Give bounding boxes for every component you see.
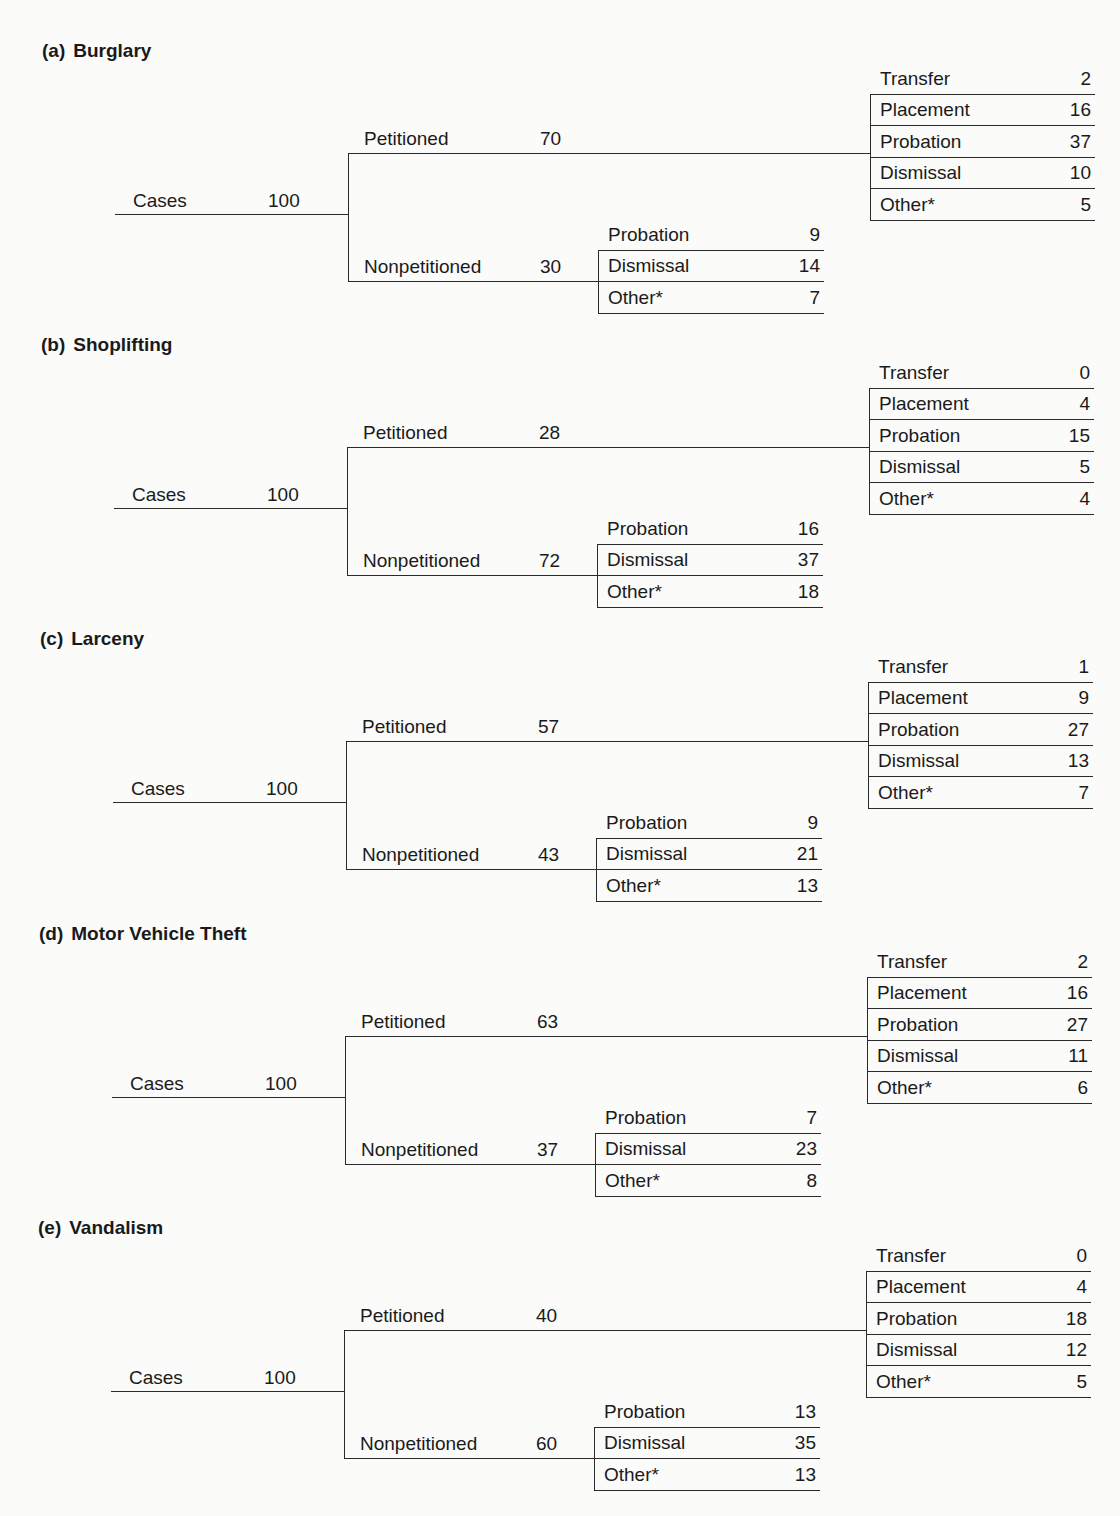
outcome-row: Other*13 bbox=[594, 1458, 820, 1491]
outcome-row: Probation27 bbox=[867, 1008, 1092, 1041]
outcome-row: Dismissal5 bbox=[869, 451, 1094, 484]
section-letter: (b) bbox=[41, 334, 65, 355]
nonpetitioned-line bbox=[346, 869, 597, 870]
petitioned-outcomes-table: Transfer0 Placement4 Probation15 Dismiss… bbox=[869, 356, 1094, 514]
nonpetitioned-line bbox=[345, 1164, 596, 1165]
petitioned-label: Petitioned bbox=[362, 716, 447, 738]
tree-burglary: (a)Burglary Cases 100 Petitioned 70 Nonp… bbox=[0, 0, 1120, 294]
nonpetitioned-label: Nonpetitioned bbox=[364, 256, 481, 278]
cases-label: Cases bbox=[131, 778, 185, 800]
outcome-row: Dismissal35 bbox=[594, 1427, 820, 1460]
petitioned-line bbox=[348, 153, 871, 154]
cases-label: Cases bbox=[130, 1073, 184, 1095]
cases-line bbox=[111, 1391, 345, 1392]
cases-label: Cases bbox=[132, 484, 186, 506]
section-name: Motor Vehicle Theft bbox=[71, 923, 246, 944]
branch-connector bbox=[345, 1036, 346, 1164]
petitioned-line bbox=[347, 447, 870, 448]
cases-line bbox=[112, 1097, 346, 1098]
section-name: Larceny bbox=[71, 628, 144, 649]
branch-connector bbox=[346, 741, 347, 869]
section-letter: (d) bbox=[39, 923, 63, 944]
outcome-row: Dismissal21 bbox=[596, 838, 822, 871]
outcome-row: Transfer0 bbox=[866, 1239, 1091, 1272]
outcome-row: Transfer2 bbox=[867, 945, 1092, 978]
outcome-row: Placement4 bbox=[866, 1271, 1091, 1304]
nonpetitioned-line bbox=[348, 281, 599, 282]
outcome-row: Dismissal10 bbox=[870, 157, 1095, 190]
petitioned-label: Petitioned bbox=[363, 422, 448, 444]
outcome-row: Probation37 bbox=[870, 125, 1095, 158]
nonpetitioned-outcomes-table: Probation13 Dismissal35 Other*13 bbox=[594, 1395, 820, 1491]
cases-value: 100 bbox=[264, 1367, 296, 1389]
section-name: Vandalism bbox=[69, 1217, 163, 1238]
outcome-row: Probation16 bbox=[597, 512, 823, 545]
nonpetitioned-value: 43 bbox=[538, 844, 559, 866]
outcome-row: Probation7 bbox=[595, 1101, 821, 1134]
cases-value: 100 bbox=[266, 778, 298, 800]
cases-value: 100 bbox=[265, 1073, 297, 1095]
outcome-row: Transfer0 bbox=[869, 356, 1094, 389]
outcome-row: Dismissal14 bbox=[598, 250, 824, 283]
nonpetitioned-label: Nonpetitioned bbox=[361, 1139, 478, 1161]
petitioned-label: Petitioned bbox=[361, 1011, 446, 1033]
nonpetitioned-line bbox=[344, 1458, 595, 1459]
petitioned-value: 40 bbox=[536, 1305, 557, 1327]
nonpetitioned-label: Nonpetitioned bbox=[362, 844, 479, 866]
outcome-row: Probation9 bbox=[598, 218, 824, 251]
outcome-row: Dismissal37 bbox=[597, 544, 823, 577]
cases-line bbox=[115, 214, 349, 215]
nonpetitioned-label: Nonpetitioned bbox=[360, 1433, 477, 1455]
section-letter: (e) bbox=[38, 1217, 61, 1238]
outcome-row: Dismissal13 bbox=[868, 745, 1093, 778]
section-name: Shoplifting bbox=[73, 334, 172, 355]
petitioned-label: Petitioned bbox=[364, 128, 449, 150]
branch-connector bbox=[348, 153, 349, 281]
outcome-row: Dismissal23 bbox=[595, 1133, 821, 1166]
petitioned-value: 70 bbox=[540, 128, 561, 150]
tree-shoplifting: (b)Shoplifting Cases 100 Petitioned 28 N… bbox=[0, 294, 1119, 588]
petitioned-value: 63 bbox=[537, 1011, 558, 1033]
section-title: (c)Larceny bbox=[40, 628, 144, 650]
petitioned-line bbox=[346, 741, 869, 742]
petitioned-line bbox=[345, 1036, 868, 1037]
nonpetitioned-value: 37 bbox=[537, 1139, 558, 1161]
outcome-row: Dismissal12 bbox=[866, 1334, 1091, 1367]
tree-larceny: (c)Larceny Cases 100 Petitioned 57 Nonpe… bbox=[0, 588, 1118, 882]
outcome-row: Probation15 bbox=[869, 419, 1094, 452]
section-title: (d)Motor Vehicle Theft bbox=[39, 923, 247, 945]
branch-connector bbox=[347, 447, 348, 575]
section-title: (a)Burglary bbox=[42, 40, 151, 62]
petitioned-label: Petitioned bbox=[360, 1305, 445, 1327]
tree-vandalism: (e)Vandalism Cases 100 Petitioned 40 Non… bbox=[0, 1177, 1116, 1471]
petitioned-line bbox=[344, 1330, 867, 1331]
outcome-row: Dismissal11 bbox=[867, 1040, 1092, 1073]
nonpetitioned-value: 60 bbox=[536, 1433, 557, 1455]
petitioned-outcomes-table: Transfer0 Placement4 Probation18 Dismiss… bbox=[866, 1239, 1091, 1397]
outcome-row: Placement16 bbox=[870, 94, 1095, 127]
tree-motor-vehicle-theft: (d)Motor Vehicle Theft Cases 100 Petitio… bbox=[0, 883, 1117, 1177]
outcome-row: Other*4 bbox=[869, 482, 1094, 515]
petitioned-value: 57 bbox=[538, 716, 559, 738]
outcome-row: Probation13 bbox=[594, 1395, 820, 1428]
outcome-row: Other*6 bbox=[867, 1071, 1092, 1104]
section-title: (e)Vandalism bbox=[38, 1217, 163, 1239]
section-name: Burglary bbox=[73, 40, 151, 61]
section-title: (b)Shoplifting bbox=[41, 334, 172, 356]
branch-connector bbox=[344, 1330, 345, 1458]
outcome-row: Transfer1 bbox=[868, 650, 1093, 683]
petitioned-outcomes-table: Transfer1 Placement9 Probation27 Dismiss… bbox=[868, 650, 1093, 808]
outcome-row: Other*5 bbox=[870, 188, 1095, 221]
nonpetitioned-line bbox=[347, 575, 598, 576]
cases-label: Cases bbox=[129, 1367, 183, 1389]
cases-line bbox=[114, 508, 348, 509]
petitioned-outcomes-table: Transfer2 Placement16 Probation27 Dismis… bbox=[867, 945, 1092, 1103]
outcome-row: Transfer2 bbox=[870, 62, 1095, 95]
nonpetitioned-value: 72 bbox=[539, 550, 560, 572]
nonpetitioned-value: 30 bbox=[540, 256, 561, 278]
outcome-row: Other*7 bbox=[868, 776, 1093, 809]
petitioned-value: 28 bbox=[539, 422, 560, 444]
cases-value: 100 bbox=[268, 190, 300, 212]
cases-line bbox=[113, 802, 347, 803]
cases-label: Cases bbox=[133, 190, 187, 212]
